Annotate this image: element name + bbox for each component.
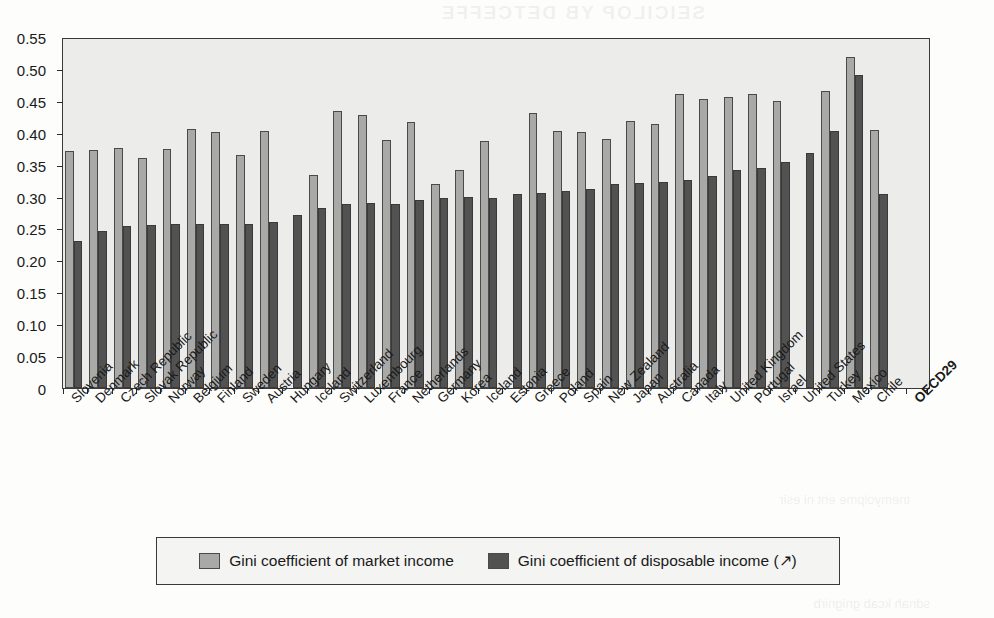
bar-disposable-income xyxy=(586,189,595,388)
legend-swatch-disposable-income xyxy=(488,553,509,569)
bar-disposable-income xyxy=(74,241,83,388)
bar-disposable-income xyxy=(733,170,742,388)
bar-market-income xyxy=(626,121,635,388)
bar-disposable-income xyxy=(757,168,766,388)
bar-market-income xyxy=(211,132,220,388)
y-axis-tick-label: 0.30 xyxy=(17,191,46,206)
legend-swatch-market-income xyxy=(199,553,220,569)
bar-disposable-income xyxy=(830,131,839,388)
y-axis-tick-mark xyxy=(57,229,63,230)
bar-market-income xyxy=(480,141,489,388)
bar-market-income xyxy=(138,158,147,388)
bar-market-income xyxy=(358,115,367,388)
legend-label-disposable-income: Gini coefficient of disposable income (↗… xyxy=(518,552,797,570)
legend-entry-disposable-income: Gini coefficient of disposable income (↗… xyxy=(488,552,797,570)
y-axis-tick-label: 0.05 xyxy=(17,350,46,365)
bar-market-income xyxy=(602,139,611,388)
x-axis-labels: SloveniaDenmarkCzech RepublicSlovak Repu… xyxy=(0,392,994,502)
bar-market-income xyxy=(333,111,342,388)
y-axis-tick-label: 0.50 xyxy=(17,63,46,78)
bar-market-income xyxy=(309,175,318,388)
y-axis-tick-label: 0.45 xyxy=(17,95,46,110)
bar-market-income xyxy=(724,97,733,388)
bar-market-income xyxy=(553,131,562,388)
y-axis-tick-mark xyxy=(57,325,63,326)
bar-disposable-income xyxy=(513,194,522,388)
y-axis-tick-mark xyxy=(57,357,63,358)
bar-disposable-income xyxy=(684,180,693,388)
bar-disposable-income xyxy=(879,194,888,388)
legend-label-market-income: Gini coefficient of market income xyxy=(229,552,454,570)
bar-market-income xyxy=(870,130,879,388)
y-axis-tick-mark xyxy=(57,293,63,294)
bar-market-income xyxy=(577,132,586,388)
y-axis-tick-mark xyxy=(57,198,63,199)
y-axis-tick-label: 0.35 xyxy=(17,159,46,174)
bar-disposable-income xyxy=(537,193,546,388)
bar-market-income xyxy=(431,184,440,388)
bar-disposable-income xyxy=(342,204,351,388)
bar-disposable-income xyxy=(806,153,815,388)
bar-market-income xyxy=(675,94,684,388)
bar-market-income xyxy=(821,91,830,388)
bar-market-income xyxy=(236,155,245,388)
chart-legend: Gini coefficient of market income Gini c… xyxy=(156,537,840,585)
bar-market-income xyxy=(260,131,269,388)
bar-disposable-income xyxy=(611,184,620,388)
bar-disposable-income xyxy=(708,176,717,388)
y-axis: 00.050.100.150.200.250.300.350.400.450.5… xyxy=(0,0,56,400)
y-axis-tick-mark xyxy=(57,134,63,135)
y-axis-tick-label: 0.55 xyxy=(17,31,46,46)
y-axis-tick-mark xyxy=(57,70,63,71)
gini-coefficient-bar-chart: 00.050.100.150.200.250.300.350.400.450.5… xyxy=(0,0,994,618)
bar-market-income xyxy=(65,151,74,388)
y-axis-tick-label: 0.25 xyxy=(17,222,46,237)
y-axis-tick-label: 0.40 xyxy=(17,127,46,142)
bar-market-income xyxy=(846,57,855,388)
bar-market-income xyxy=(89,150,98,388)
legend-entry-market-income: Gini coefficient of market income xyxy=(199,552,454,570)
y-axis-tick-mark xyxy=(57,261,63,262)
bar-market-income xyxy=(748,94,757,388)
bar-market-income xyxy=(114,148,123,388)
y-axis-tick-label: 0.10 xyxy=(17,318,46,333)
y-axis-tick-label: 0.15 xyxy=(17,286,46,301)
bar-market-income xyxy=(529,113,538,388)
bar-disposable-income xyxy=(489,198,498,388)
y-axis-tick-mark xyxy=(57,102,63,103)
bar-disposable-income xyxy=(562,191,571,388)
y-axis-tick-mark xyxy=(57,166,63,167)
y-axis-tick-label: 0.20 xyxy=(17,254,46,269)
bar-market-income xyxy=(699,99,708,388)
bar-disposable-income xyxy=(293,215,302,388)
